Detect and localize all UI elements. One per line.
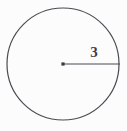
circle-diagram-canvas [0,0,127,131]
center-dot [61,62,64,65]
radius-length-label: 3 [86,44,102,61]
geometry-figure: 3 [0,0,127,131]
